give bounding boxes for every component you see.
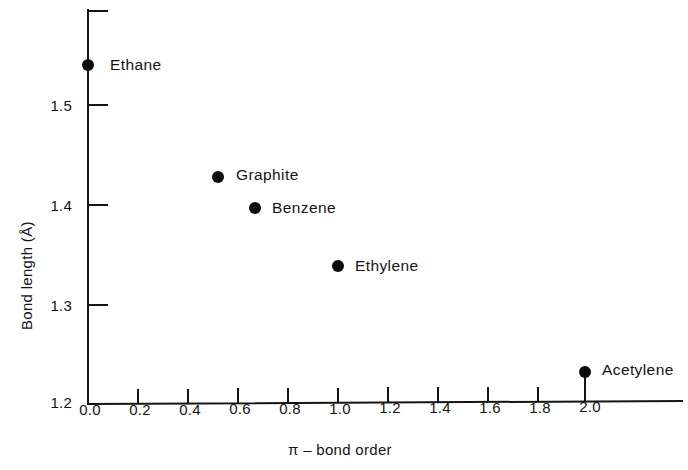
point-label-benzene: Benzene [272,199,336,217]
x-tick-label-1-8: 1.8 [529,399,550,416]
x-tick-label-0-0: 0.0 [79,401,100,418]
y-tick-label-1-4: 1.4 [10,197,72,214]
x-tick-label-0-8: 0.8 [279,400,300,417]
data-point-ethane [82,59,94,71]
x-tick-label-2-0: 2.0 [579,398,600,415]
x-tick-label-1-0: 1.0 [329,400,350,417]
point-label-graphite: Graphite [236,166,299,184]
chart-figure: 1.5 1.4 1.3 1.2 0.0 0.2 0.4 0.6 0.8 1.0 … [0,0,688,470]
point-label-ethane: Ethane [110,56,162,74]
point-label-ethylene: Ethylene [355,257,419,275]
x-tick-label-1-4: 1.4 [429,399,450,416]
x-axis-title: π – bond order [288,441,392,458]
x-tick-label-1-6: 1.6 [479,399,500,416]
x-tick-label-0-6: 0.6 [229,400,250,417]
x-tick-label-1-2: 1.2 [379,399,400,416]
point-label-acetylene: Acetylene [602,361,674,379]
y-tick-label-1-5: 1.5 [10,97,72,114]
data-point-ethylene [332,260,344,272]
data-point-acetylene [579,366,591,378]
x-tick-label-0-4: 0.4 [179,401,200,418]
y-axis-title: Bond length (Å) [18,221,35,330]
y-tick-label-1-2: 1.2 [10,394,72,411]
data-point-benzene [249,202,261,214]
x-tick-label-0-2: 0.2 [129,401,150,418]
data-point-graphite [212,171,224,183]
